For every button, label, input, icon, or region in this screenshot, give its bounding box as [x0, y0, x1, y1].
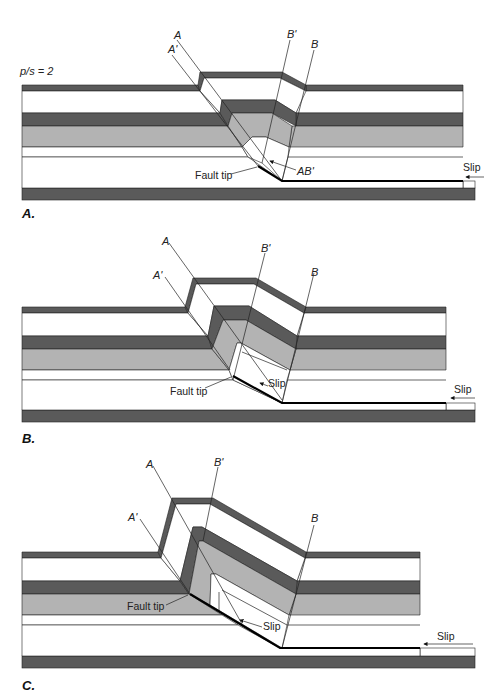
- basement-layer: [22, 410, 475, 422]
- fault-tip-label: Fault tip: [127, 600, 165, 612]
- layer-top-right: [304, 307, 446, 313]
- layer-dark-right: [296, 113, 463, 126]
- layer-top-right: [305, 552, 420, 558]
- layer-top-right: [306, 85, 463, 91]
- layer-white3: [22, 625, 420, 656]
- layer-white3: [22, 157, 463, 188]
- layer-dark-right: [296, 336, 446, 349]
- panel-b: A A' B' B Fault tip Slip Slip B.: [22, 235, 475, 446]
- fault-tip-label: Fault tip: [170, 385, 208, 397]
- label-a: A: [145, 458, 153, 470]
- slip-label: Slip: [463, 161, 481, 173]
- layer-white-right: [296, 91, 463, 113]
- basement-layer: [22, 188, 475, 200]
- layer-dark-left: [22, 113, 228, 126]
- layer-white-right: [297, 313, 446, 336]
- slip-gap: [420, 648, 475, 656]
- fault-tip-label: Fault tip: [195, 169, 233, 181]
- inner-slip-label: Slip: [268, 377, 286, 389]
- slip-label: Slip: [454, 383, 472, 395]
- layer-gray-left: [22, 349, 229, 370]
- layer-white2-left: [22, 370, 233, 380]
- layer-top-left: [22, 307, 188, 313]
- panel-label-c: C.: [22, 678, 35, 693]
- ratio-label: p/s = 2: [19, 65, 53, 77]
- layer-top-left: [22, 552, 161, 558]
- slip-label: Slip: [437, 630, 455, 642]
- layer-gray-right: [289, 126, 463, 147]
- layer-white-left: [22, 91, 220, 113]
- basement-layer: [22, 656, 475, 668]
- label-a-prime: A': [152, 269, 163, 281]
- fault-trace: [258, 166, 463, 181]
- layer-white2-left: [22, 147, 248, 157]
- label-a: A: [161, 235, 169, 247]
- label-b-prime: B': [214, 456, 224, 468]
- fault-propagation-fold-diagram: p/s = 2 A A' B' B Fault tip: [0, 0, 500, 700]
- label-b: B: [311, 512, 318, 524]
- layer-white-right: [297, 558, 420, 581]
- layer-dark-left: [22, 336, 212, 349]
- panel-label-a: A.: [21, 206, 35, 221]
- layer-dark-left: [22, 581, 189, 594]
- label-b: B: [311, 266, 318, 278]
- layer-gray-left: [22, 126, 242, 147]
- panel-label-b: B.: [22, 431, 35, 446]
- label-ab-prime: AB': [296, 165, 315, 177]
- layer-gray-right: [289, 594, 420, 615]
- layer-white-left: [22, 558, 180, 581]
- layer-white-left: [22, 313, 208, 336]
- slip-gap: [463, 181, 475, 188]
- panel-a: p/s = 2 A A' B' B Fault tip: [19, 28, 484, 221]
- slip-gap: [446, 403, 475, 410]
- layer-white3: [22, 380, 446, 410]
- label-a: A: [173, 29, 181, 41]
- label-b-prime: B': [287, 28, 297, 40]
- layer-gray-left: [22, 594, 222, 615]
- layer-gray-right: [290, 349, 446, 370]
- layer-white2-left: [22, 615, 238, 625]
- label-b: B: [311, 38, 318, 50]
- label-a-prime: A': [167, 43, 178, 55]
- inner-slip-label: Slip: [263, 620, 281, 632]
- panel-c: A A' B' B Fault tip Slip Slip C.: [22, 456, 475, 693]
- label-a-prime: A': [127, 511, 138, 523]
- layer-dark-right: [296, 581, 420, 594]
- label-b-prime: B': [261, 242, 271, 254]
- layer-top-left: [22, 85, 200, 91]
